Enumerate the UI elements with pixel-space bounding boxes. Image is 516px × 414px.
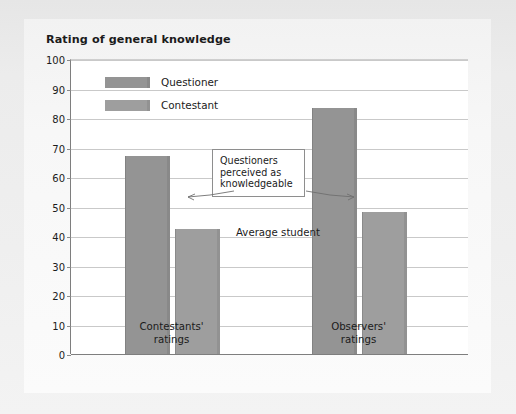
- y-tick-label: 0: [59, 350, 65, 361]
- gridline: [71, 60, 468, 61]
- x-category-label-line: Observers': [331, 320, 386, 333]
- y-tick-label: 70: [52, 143, 65, 154]
- figure-page: Rating of general knowledge 010203040506…: [0, 0, 516, 414]
- x-category-label-line: ratings: [139, 333, 203, 346]
- y-tick-label: 80: [52, 114, 65, 125]
- x-category-label-line: ratings: [331, 333, 386, 346]
- average-student-label: Average student: [236, 227, 320, 238]
- x-category-label: Observers'ratings: [331, 320, 386, 346]
- y-tick-label: 20: [52, 291, 65, 302]
- y-tick-label: 30: [52, 261, 65, 272]
- x-category-label: Contestants'ratings: [139, 320, 203, 346]
- gridline: [71, 90, 468, 91]
- y-tick-label: 100: [46, 55, 65, 66]
- y-tickmark: [67, 267, 71, 268]
- y-tick-label: 10: [52, 320, 65, 331]
- y-tickmark: [67, 355, 71, 356]
- y-tick-label: 90: [52, 84, 65, 95]
- bar-shadow: [404, 212, 407, 354]
- figure-card: Rating of general knowledge 010203040506…: [24, 19, 491, 393]
- y-tickmark: [67, 119, 71, 120]
- annotation-text-line: Questioners: [220, 155, 298, 167]
- bar-shadow: [354, 108, 357, 354]
- y-tickmark: [67, 208, 71, 209]
- gridline: [71, 119, 468, 120]
- x-category-label-line: Contestants': [139, 320, 203, 333]
- gridline: [71, 354, 468, 355]
- y-tickmark: [67, 326, 71, 327]
- y-tickmark: [67, 60, 71, 61]
- annotation-text-line: perceived as: [220, 167, 298, 179]
- y-tickmark: [67, 149, 71, 150]
- y-tick-label: 40: [52, 232, 65, 243]
- y-tickmark: [67, 178, 71, 179]
- y-tickmark: [67, 90, 71, 91]
- page-title: Rating of general knowledge: [46, 33, 231, 46]
- y-tickmark: [67, 296, 71, 297]
- annotation-callout: Questioners perceived as knowledgeable Q…: [212, 149, 305, 197]
- y-tick-label: 50: [52, 202, 65, 213]
- annotation-text-line: knowledgeable: [220, 178, 298, 190]
- bar-shadow: [217, 229, 220, 354]
- y-tickmark: [67, 237, 71, 238]
- y-tick-label: 60: [52, 173, 65, 184]
- plot-area: 0102030405060708090100: [70, 59, 468, 354]
